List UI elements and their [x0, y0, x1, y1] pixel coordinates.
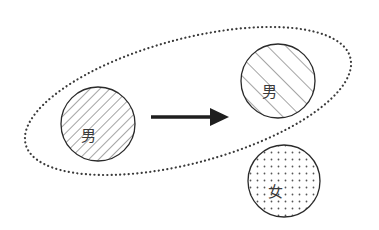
node-top-right-male: 男	[241, 44, 315, 118]
diagram-svg: 男 男 女	[0, 0, 379, 230]
node-bottom-right-female: 女	[248, 145, 320, 217]
bottom-right-female-label: 女	[268, 183, 283, 201]
top-right-male-circle	[241, 44, 315, 118]
bottom-right-female-circle	[248, 145, 320, 217]
diagram-canvas: 男 男 女	[0, 0, 379, 230]
top-right-male-label: 男	[262, 83, 277, 101]
arrow-head-icon	[210, 108, 229, 126]
left-male-label: 男	[81, 127, 96, 145]
node-left-male: 男	[61, 87, 135, 161]
left-male-circle	[61, 87, 135, 161]
